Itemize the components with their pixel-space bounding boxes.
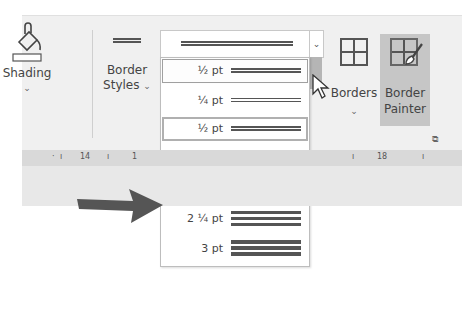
chevron-down-icon: ⌄ — [0, 81, 54, 96]
line-weight-preview — [231, 240, 301, 258]
line-weight-preview — [231, 126, 301, 133]
chevron-down-icon: ⌄ — [330, 104, 378, 119]
ruler-mark: 1 — [132, 152, 137, 161]
line-weight-preview — [231, 68, 301, 75]
paintbrush-icon — [402, 42, 424, 68]
ruler-mark: 18 — [377, 152, 387, 161]
dialog-launcher-icon[interactable]: ⧉ — [432, 134, 438, 145]
border-styles-label-2: Styles — [103, 78, 139, 92]
ruler-tick: ı — [352, 152, 354, 161]
border-painter-content: Border Painter — [380, 34, 430, 126]
border-styles-label-1: Border — [98, 63, 156, 78]
shading-label: Shading — [0, 66, 54, 81]
borders-label: Borders — [330, 86, 378, 101]
borders-grid-icon — [340, 38, 368, 66]
chevron-down-icon: ⌄ — [143, 81, 151, 91]
ruler-tick: ı — [107, 152, 109, 161]
border-painter-label-1: Border — [380, 86, 430, 101]
border-styles-button[interactable]: Border Styles ⌄ — [98, 38, 156, 118]
line-weight-preview — [231, 98, 301, 104]
menu-item-half-pt[interactable]: ½ pt — [161, 116, 309, 142]
menu-item-half-pt-top[interactable]: ½ pt — [161, 58, 309, 84]
ruler-tick: ı — [422, 152, 424, 161]
pen-style-dropdown-arrow[interactable]: ⌄ — [309, 30, 324, 58]
borders-button[interactable]: Borders ⌄ — [330, 34, 378, 124]
mouse-cursor-icon — [312, 74, 330, 100]
ruler-tick: ı — [60, 152, 62, 161]
annotation-arrow-icon — [75, 185, 165, 225]
group-divider — [92, 30, 93, 138]
ruler: · ı 14 ı 1 ı 18 ı — [22, 150, 462, 166]
line-weight-preview — [231, 211, 301, 228]
border-painter-label-2: Painter — [380, 102, 430, 117]
pen-style-dropdown[interactable] — [160, 30, 310, 58]
ruler-mark: 14 — [80, 152, 90, 161]
ruler-tick: · — [52, 152, 55, 161]
menu-item-two-quarter-pt[interactable]: 2 ¼ pt — [161, 206, 309, 232]
pen-style-preview — [181, 41, 293, 46]
menu-item-three-pt[interactable]: 3 pt — [161, 236, 309, 262]
menu-item-quarter-pt[interactable]: ¼ pt — [161, 88, 309, 114]
paint-bucket-icon — [7, 22, 47, 66]
shading-button[interactable]: Shading ⌄ — [0, 22, 54, 122]
border-style-line-icon — [113, 38, 141, 43]
